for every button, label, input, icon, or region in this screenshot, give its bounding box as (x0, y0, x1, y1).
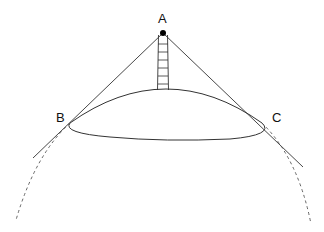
horizon-ellipse-bottom (69, 123, 265, 140)
label-a: A (158, 12, 167, 25)
tower-ladder (158, 35, 169, 90)
earth-curve-dashed-left (16, 123, 70, 220)
label-c: C (272, 111, 281, 124)
earth-surface-arc (70, 89, 262, 123)
observer-point-icon (160, 30, 166, 36)
earth-curve-dashed-right (262, 123, 311, 224)
label-b: B (56, 111, 65, 124)
